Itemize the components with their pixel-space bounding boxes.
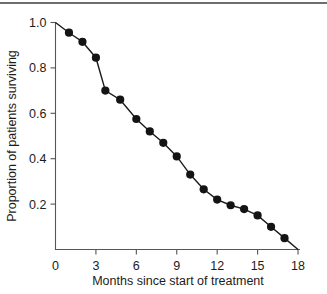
y-tick-label: 1.0: [29, 16, 46, 30]
y-axis-ticks: [51, 23, 56, 205]
x-tick-label: 9: [173, 259, 180, 273]
y-tick-label: 0.2: [29, 198, 46, 212]
survival-curve-chart: 0.20.40.60.81.0 0369121518 Months since …: [0, 0, 327, 294]
x-axis-tick-labels: 0369121518: [52, 259, 305, 273]
x-tick-label: 18: [291, 259, 305, 273]
x-tick-label: 3: [92, 259, 99, 273]
figure-container: 0.20.40.60.81.0 0369121518 Months since …: [0, 0, 327, 294]
data-point-marker: [65, 29, 73, 37]
data-point-marker: [227, 201, 235, 209]
x-tick-label: 0: [52, 259, 59, 273]
data-point-marker: [240, 205, 248, 213]
data-point-marker: [116, 96, 124, 104]
y-axis-tick-labels: 0.20.40.60.81.0: [29, 16, 46, 212]
x-axis-title: Months since start of treatment: [92, 274, 264, 288]
data-point-marker: [92, 54, 100, 62]
data-point-marker: [159, 139, 167, 147]
x-tick-label: 6: [133, 259, 140, 273]
data-point-marker: [173, 152, 181, 160]
data-point-marker: [253, 211, 261, 219]
survival-data-points: [65, 29, 289, 243]
y-tick-label: 0.4: [29, 152, 46, 166]
data-point-marker: [146, 127, 154, 135]
y-axis-title: Proportion of patients surviving: [5, 50, 19, 222]
data-point-marker: [132, 115, 140, 123]
x-tick-label: 12: [210, 259, 224, 273]
y-tick-label: 0.6: [29, 107, 46, 121]
data-point-marker: [213, 195, 221, 203]
data-point-marker: [267, 223, 275, 231]
data-point-marker: [78, 38, 86, 46]
data-point-marker: [101, 87, 109, 95]
y-tick-label: 0.8: [29, 61, 46, 75]
data-point-marker: [280, 234, 288, 242]
x-tick-label: 15: [251, 259, 265, 273]
data-point-marker: [186, 170, 194, 178]
x-axis-ticks: [96, 250, 298, 255]
data-point-marker: [200, 185, 208, 193]
